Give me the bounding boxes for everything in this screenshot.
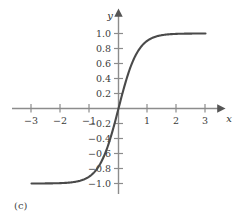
y-tick-label-0p6: 0.6 <box>96 58 111 69</box>
panel-label: (c) <box>14 200 27 211</box>
x-tick-label-2: 2 <box>173 115 179 126</box>
y-tick-label-1p0: 1.0 <box>96 28 111 39</box>
x-tick-label-neg2: −2 <box>53 115 67 126</box>
x-tick-label-1: 1 <box>144 115 150 126</box>
figure-panel: −3 −2 −1 1 2 3 1.0 0.8 0.6 0.4 0.2 −0.2 … <box>0 0 245 219</box>
y-tick-label-0p4: 0.4 <box>96 73 111 84</box>
y-tick-label-neg1p0: −1.0 <box>88 178 111 189</box>
x-tick-label-3: 3 <box>202 115 208 126</box>
x-tick-label-neg3: −3 <box>24 115 38 126</box>
y-tick-label-0p2: 0.2 <box>96 88 111 99</box>
y-tick-label-neg0p2: −0.2 <box>88 118 111 129</box>
y-axis-label: y <box>106 10 113 21</box>
sigmoid-chart: −3 −2 −1 1 2 3 1.0 0.8 0.6 0.4 0.2 −0.2 … <box>0 0 245 219</box>
y-tick-label-0p8: 0.8 <box>96 43 111 54</box>
y-tick-label-neg0p4: −0.4 <box>88 133 111 144</box>
x-axis-label: x <box>226 113 232 124</box>
